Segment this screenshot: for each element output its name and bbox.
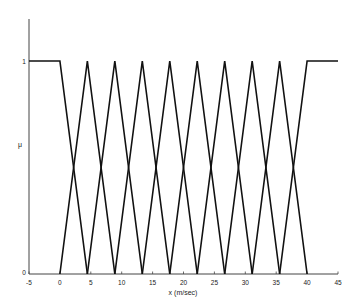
membership-function-lines [29,61,338,274]
membership-function-chart: -5051015202530354045 1 0 μ x (m/sec) [0,0,360,305]
x-tick-label: 15 [149,279,157,286]
x-tick-label: 30 [242,279,250,286]
x-tick-labels: -5051015202530354045 [26,279,342,286]
membership-function-line [280,61,338,274]
x-tick-label: 40 [303,279,311,286]
membership-function-line [197,61,252,274]
membership-function-line [87,61,142,274]
membership-function-line [225,61,280,274]
x-tick-label: 0 [58,279,62,286]
x-tick-label: 20 [180,279,188,286]
x-tick-label: 5 [89,279,93,286]
membership-function-line [142,61,197,274]
membership-function-line [252,61,307,274]
membership-function-line [60,61,115,274]
x-tick-label: 45 [334,279,342,286]
axes: -5051015202530354045 1 0 μ x (m/sec) [18,19,342,297]
membership-function-line [29,61,87,274]
y-axis-title: μ [18,141,22,149]
membership-function-line [170,61,225,274]
y-tick-label-0: 0 [22,269,26,276]
membership-function-line [115,61,170,274]
x-tick-label: -5 [26,279,32,286]
x-tick-label: 10 [118,279,126,286]
x-tick-label: 35 [273,279,281,286]
y-tick-label-1: 1 [22,58,26,65]
x-axis-title: x (m/sec) [169,289,198,297]
x-tick-label: 25 [211,279,219,286]
